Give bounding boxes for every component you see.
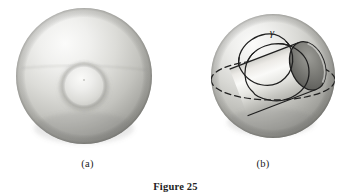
panel-label-b: (b) [175, 158, 351, 169]
figure-container: (a) [0, 0, 351, 193]
figure-caption: Figure 25 [0, 181, 351, 193]
panel-label-a: (a) [0, 158, 175, 169]
panel-a: (a) [0, 0, 175, 193]
gamma-label: γ [270, 26, 275, 38]
sphere-dimple-a [59, 62, 109, 112]
panel-b: γ (b) [175, 0, 351, 193]
